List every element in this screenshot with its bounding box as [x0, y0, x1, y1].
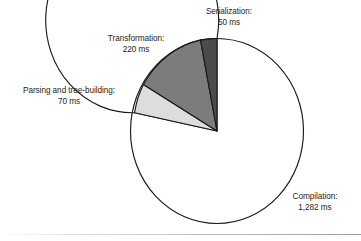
pie-label-parsing-value: 70 ms	[2, 97, 136, 108]
pie-label-parsing-name: Parsing and tree-building:	[2, 86, 136, 97]
pie-label-parsing-and-tree-building: Parsing and tree-building: 70 ms	[2, 86, 136, 107]
pie-label-transformation: Transformation: 220 ms	[88, 34, 184, 55]
pie-label-serialization-value: 50 ms	[181, 18, 277, 29]
pie-label-compilation-value: 1,282 ms	[272, 203, 358, 214]
pie-label-transformation-name: Transformation:	[88, 34, 184, 45]
pie-label-serialization-name: Serialization:	[181, 7, 277, 18]
pie-label-serialization: Serialization: 50 ms	[181, 7, 277, 28]
pie-chart-figure: Serialization: 50 ms Transformation: 220…	[0, 0, 361, 241]
pie-label-transformation-value: 220 ms	[88, 45, 184, 56]
pie-label-compilation: Compilation: 1,282 ms	[272, 192, 358, 213]
pie-label-compilation-name: Compilation:	[272, 192, 358, 203]
footer-divider	[0, 234, 361, 235]
